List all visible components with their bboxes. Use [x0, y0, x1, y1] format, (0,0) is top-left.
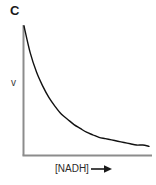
axes-group — [23, 25, 153, 156]
chart-plot-area — [0, 0, 156, 185]
x-axis-label-group: [NADH] — [55, 164, 113, 174]
right-arrow-icon — [91, 164, 113, 174]
x-axis-label: [NADH] — [55, 164, 89, 174]
figure-panel-c: C v [NADH] — [0, 0, 156, 185]
y-axis-label: v — [11, 78, 16, 88]
decay-curve — [24, 26, 149, 146]
